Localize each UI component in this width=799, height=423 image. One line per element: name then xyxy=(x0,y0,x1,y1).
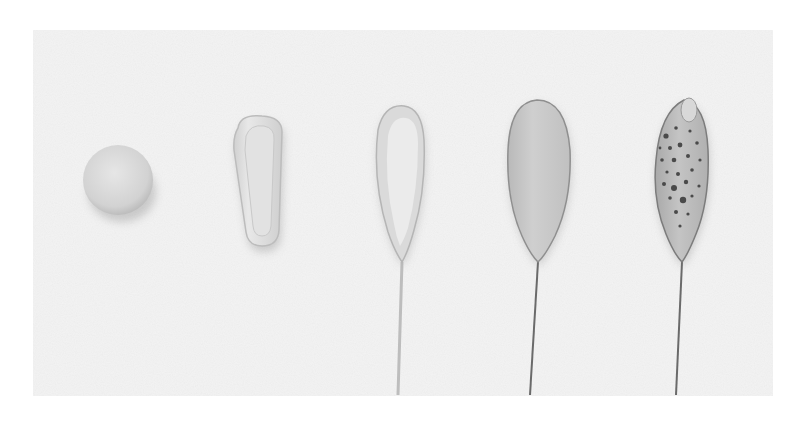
petal-stages-photo xyxy=(33,30,773,396)
petal-tip-bead xyxy=(681,98,697,122)
